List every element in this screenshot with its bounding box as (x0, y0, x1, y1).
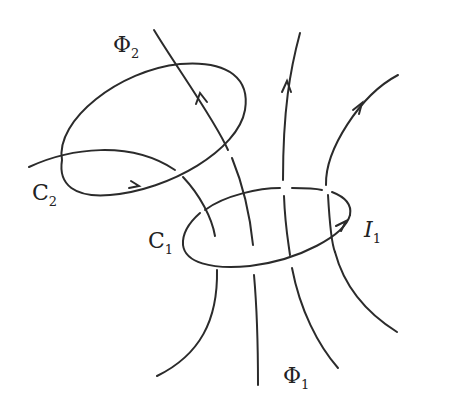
label-phi2: Φ2 (113, 32, 139, 61)
flux-arrow-icon (129, 181, 139, 188)
flux-line-3 (282, 33, 338, 368)
flux-line-1 (29, 150, 217, 376)
current-arrow-icon (336, 221, 346, 231)
flux-line-2 (154, 30, 258, 385)
label-c1: C1 (148, 228, 173, 257)
mutual-inductance-diagram: Φ2 C2 C1 I1 Φ1 (0, 0, 450, 405)
flux-arrow-icon (353, 103, 362, 114)
loop-c1 (183, 188, 350, 267)
label-phi1: Φ1 (283, 363, 309, 392)
label-i1: I1 (363, 217, 381, 246)
flux-line-4 (326, 75, 398, 332)
label-c2: C2 (32, 180, 57, 209)
